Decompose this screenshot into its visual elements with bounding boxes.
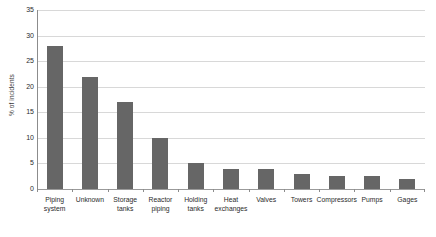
bar (399, 179, 415, 189)
y-tick-label: 20 (26, 83, 34, 91)
y-tick-label: 5 (30, 159, 34, 167)
bar (152, 138, 168, 189)
bar (223, 169, 239, 189)
y-tick-label: 30 (26, 32, 34, 40)
y-tick-label: 15 (26, 108, 34, 116)
bars (37, 10, 425, 189)
x-axis-label: Gages (386, 195, 429, 204)
x-axis-labels: Piping systemUnknownStorage tanksReactor… (37, 195, 425, 235)
x-tick (319, 189, 320, 192)
bar (258, 169, 274, 189)
y-tick-label: 25 (26, 57, 34, 65)
y-tick-label: 35 (26, 6, 34, 14)
x-tick (213, 189, 214, 192)
x-tick (424, 189, 425, 192)
x-tick (72, 189, 73, 192)
bar-chart: % of incidents 05101520253035 Piping sys… (0, 0, 436, 237)
bar (82, 77, 98, 190)
plot-area (37, 10, 425, 189)
x-tick (143, 189, 144, 192)
y-axis-tick-labels: 05101520253035 (14, 0, 34, 192)
bar (117, 102, 133, 189)
x-tick (249, 189, 250, 192)
x-tick (354, 189, 355, 192)
x-axis-ticks (37, 189, 425, 193)
x-tick (284, 189, 285, 192)
x-tick (108, 189, 109, 192)
bar (364, 176, 380, 189)
x-tick (37, 189, 38, 192)
x-tick (178, 189, 179, 192)
y-tick-label: 10 (26, 134, 34, 142)
y-tick-label: 0 (30, 185, 34, 193)
bar (294, 174, 310, 189)
x-tick (390, 189, 391, 192)
bar (188, 163, 204, 189)
bar (47, 46, 63, 189)
bar (329, 176, 345, 189)
